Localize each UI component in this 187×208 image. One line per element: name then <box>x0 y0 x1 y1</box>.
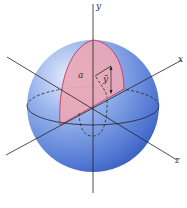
z-axis-label: z <box>175 156 180 165</box>
diagram-canvas: y x z a ȳ <box>0 0 187 208</box>
radius-label: a <box>78 71 83 80</box>
centroid-label: ȳ <box>103 75 108 84</box>
sphere-diagram <box>0 0 187 208</box>
y-axis-label: y <box>96 2 101 11</box>
x-axis-label: x <box>178 55 183 64</box>
